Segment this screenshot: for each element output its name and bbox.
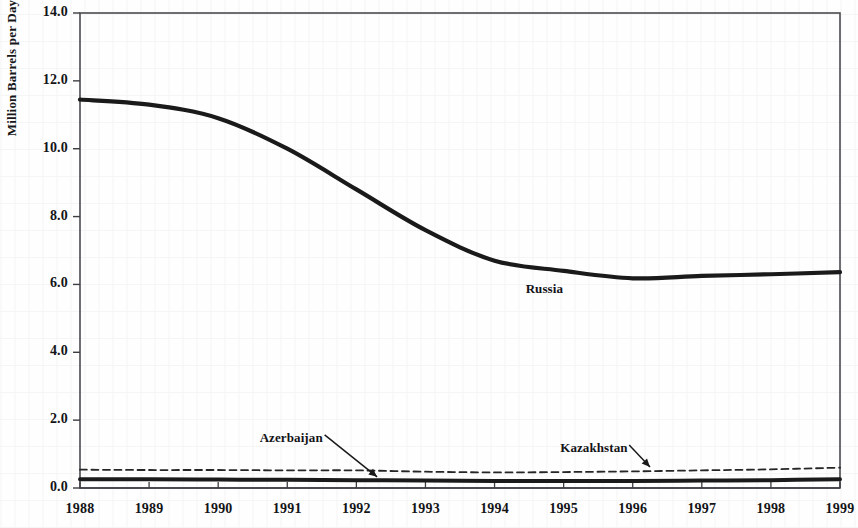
axis-ticks	[73, 13, 840, 488]
data-series	[80, 100, 840, 481]
series-line-kazakhstan	[80, 468, 840, 473]
plot-frame	[80, 13, 840, 488]
series-line-russia	[80, 100, 840, 279]
series-line-azerbaijan	[80, 479, 840, 481]
annotation-arrows	[325, 435, 650, 477]
plot-area	[0, 0, 858, 528]
chart-container: Million Barrels per Day 0.02.04.06.08.01…	[0, 0, 858, 528]
